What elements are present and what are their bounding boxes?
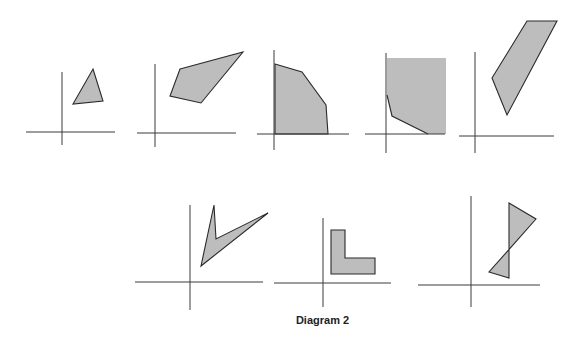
diagram-caption: Diagram 2 xyxy=(0,314,571,326)
panel-unbounded-region xyxy=(365,53,446,153)
panel-strip xyxy=(459,21,557,153)
diagram-canvas xyxy=(0,0,571,342)
shape-l-shape xyxy=(331,230,375,274)
shape-unbounded-region xyxy=(387,58,446,134)
panel-quadrilateral xyxy=(137,52,243,147)
shape-bowtie xyxy=(489,203,536,278)
panel-chevron xyxy=(135,205,268,310)
shape-triangle xyxy=(73,69,103,104)
panel-bowtie xyxy=(418,196,540,307)
panel-l-shape xyxy=(274,218,391,307)
shape-chevron xyxy=(201,205,268,266)
shape-quadrilateral xyxy=(170,52,243,103)
shape-strip xyxy=(492,21,557,115)
shape-region-on-axes xyxy=(275,64,328,134)
panel-triangle xyxy=(26,69,115,145)
panel-region-on-axes xyxy=(257,50,349,150)
